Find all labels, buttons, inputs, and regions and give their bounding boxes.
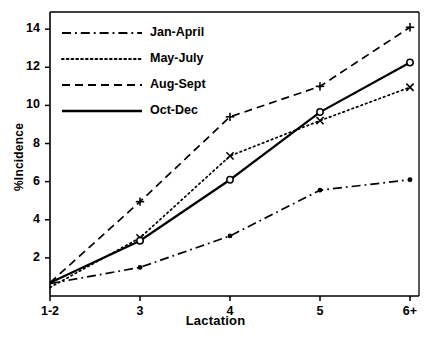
legend-label: Oct-Dec — [150, 103, 198, 117]
data-point-dot — [408, 177, 413, 182]
series-line — [50, 180, 410, 284]
y-tick-label: 2 — [10, 250, 40, 264]
data-point-cross — [316, 117, 323, 124]
data-point-dot — [318, 188, 323, 193]
legend-label: Jan-April — [150, 25, 204, 39]
data-point-circle — [317, 109, 323, 115]
x-tick-label: 4 — [205, 304, 255, 318]
data-point-circle — [137, 238, 143, 244]
y-tick-label: 12 — [10, 59, 40, 73]
y-tick-label: 8 — [10, 136, 40, 150]
x-tick-label: 6+ — [385, 304, 431, 318]
legend-sample-lines — [62, 33, 142, 111]
series-jan-april — [50, 177, 412, 283]
y-tick-label: 14 — [10, 21, 40, 35]
x-tick-label: 3 — [115, 304, 165, 318]
legend-label: Aug-Sept — [150, 77, 206, 91]
x-tick-label: 1-2 — [25, 304, 75, 318]
data-series-group — [50, 23, 414, 287]
series-line — [50, 63, 410, 283]
y-tick-label: 10 — [10, 97, 40, 111]
incidence-by-lactation-chart: Lactation %Incidence 2468101214 1-23456+… — [0, 0, 431, 337]
legend-label: May-July — [150, 51, 204, 65]
data-point-dot — [228, 234, 233, 239]
y-tick-label: 4 — [10, 212, 40, 226]
x-tick-label: 5 — [295, 304, 345, 318]
data-point-dot — [138, 265, 143, 270]
y-tick-label: 6 — [10, 174, 40, 188]
data-point-plus — [136, 197, 144, 205]
y-axis-label: %Incidence — [12, 112, 26, 202]
data-point-cross — [226, 152, 233, 159]
data-point-circle — [407, 59, 413, 65]
data-point-circle — [227, 177, 233, 183]
series-oct-dec — [50, 59, 413, 282]
plot-area — [0, 0, 431, 337]
data-point-cross — [406, 84, 413, 91]
